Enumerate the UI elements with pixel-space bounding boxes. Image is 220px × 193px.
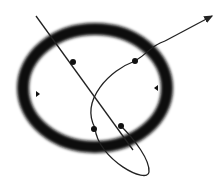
marker-right-icon <box>154 85 158 91</box>
arrow-line <box>165 16 212 41</box>
dot-upper-right <box>132 58 138 64</box>
diagram-canvas <box>0 0 220 193</box>
marker-left-icon <box>36 91 40 97</box>
dot-upper-left <box>70 59 76 65</box>
dot-lower-right <box>118 123 124 129</box>
dot-lower-left <box>91 126 97 132</box>
